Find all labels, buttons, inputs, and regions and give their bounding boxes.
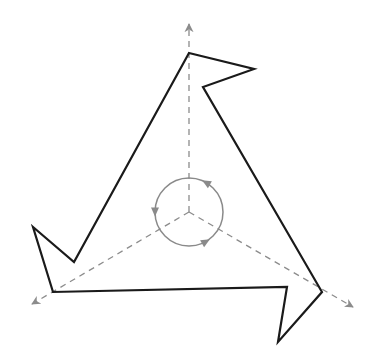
rotation-arrowhead-icon [202, 180, 212, 188]
axis-lower-right [189, 212, 353, 307]
rotation-arrowhead-icon [151, 208, 159, 217]
rotational-symmetry-diagram [0, 0, 368, 363]
shape-outline [33, 53, 322, 342]
